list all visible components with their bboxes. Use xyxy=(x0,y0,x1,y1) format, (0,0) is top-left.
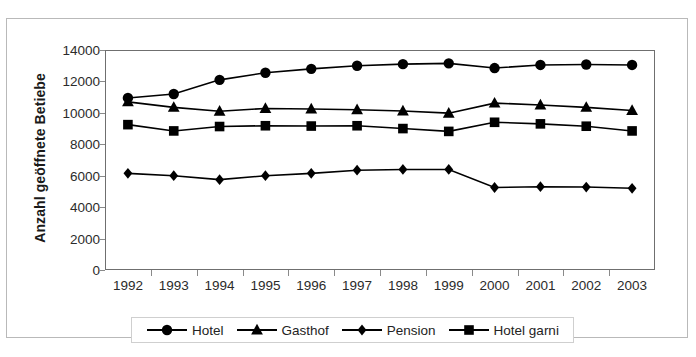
legend-label: Gasthof xyxy=(282,323,329,338)
square-marker-icon xyxy=(448,323,490,337)
x-axis-tick-mark xyxy=(518,270,519,276)
diamond-marker-icon xyxy=(341,323,383,337)
x-axis-tick-mark xyxy=(243,270,244,276)
x-axis-tick-mark xyxy=(380,270,381,276)
y-axis-tick-mark xyxy=(99,113,105,114)
legend-entry-hotel-garni[interactable]: Hotel garni xyxy=(448,323,559,338)
y-axis-tick-mark xyxy=(99,144,105,145)
plot-area xyxy=(105,50,655,270)
chart-figure: Anzahl geöffnete Betiebe 020004000600080… xyxy=(0,0,696,357)
x-axis-tick-labels: 1992199319941995199619971998199920002001… xyxy=(105,278,655,300)
legend-label: Hotel xyxy=(192,323,224,338)
y-axis-tick-label: 10000 xyxy=(34,105,100,120)
y-axis-tick-label: 2000 xyxy=(34,231,100,246)
legend-entry-hotel[interactable]: Hotel xyxy=(146,323,224,338)
y-axis-tick-label: 12000 xyxy=(34,74,100,89)
x-axis-tick-label: 2003 xyxy=(602,278,662,293)
y-axis-tick-mark xyxy=(99,239,105,240)
y-axis-tick-label: 6000 xyxy=(34,168,100,183)
triangle-marker-icon xyxy=(236,323,278,337)
y-axis-tick-label: 4000 xyxy=(34,200,100,215)
y-axis-tick-mark xyxy=(99,50,105,51)
y-axis-tick-label: 14000 xyxy=(34,43,100,58)
x-axis-tick-mark xyxy=(151,270,152,276)
y-axis-tick-mark xyxy=(99,270,105,271)
x-axis-tick-mark xyxy=(472,270,473,276)
x-axis-tick-mark xyxy=(609,270,610,276)
x-axis-tick-mark xyxy=(563,270,564,276)
y-axis-tick-mark xyxy=(99,176,105,177)
y-axis-tick-labels: 02000400060008000100001200014000 xyxy=(34,50,100,270)
circle-marker-icon xyxy=(146,323,188,337)
legend-entry-gasthof[interactable]: Gasthof xyxy=(236,323,329,338)
legend-label: Pension xyxy=(387,323,436,338)
y-axis-tick-label: 8000 xyxy=(34,137,100,152)
chart-legend: HotelGasthofPensionHotel garni xyxy=(131,317,574,343)
x-axis-tick-mark xyxy=(197,270,198,276)
y-axis-tick-mark xyxy=(99,207,105,208)
y-axis-tick-mark xyxy=(99,81,105,82)
legend-entry-pension[interactable]: Pension xyxy=(341,323,436,338)
x-axis-tick-mark xyxy=(334,270,335,276)
legend-label: Hotel garni xyxy=(494,323,559,338)
x-axis-tick-mark xyxy=(288,270,289,276)
y-axis-tick-label: 0 xyxy=(34,263,100,278)
x-axis-tick-mark xyxy=(426,270,427,276)
